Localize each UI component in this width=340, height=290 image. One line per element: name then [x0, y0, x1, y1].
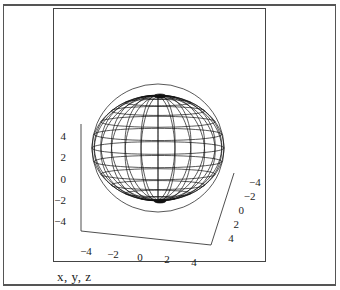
vertical-axis-ticks: 420−2−4: [54, 130, 81, 227]
bottom-axis-ticks: −4−2024: [80, 233, 201, 268]
pole-cap: [154, 94, 166, 98]
wire-line: [111, 96, 155, 201]
tick-label: −2: [244, 190, 256, 202]
sphere-wireframe: [92, 84, 224, 212]
tick-label: 0: [239, 204, 245, 216]
tick-mark: [233, 182, 247, 183]
wire-line: [160, 95, 204, 200]
pole-cap: [154, 199, 166, 203]
sphere-plot: 420−2−4 −4−2024 −4−2024: [0, 0, 340, 290]
tick-label: 0: [137, 251, 143, 263]
tick-mark: [143, 239, 147, 251]
tick-label: 4: [228, 232, 234, 244]
wire-line: [94, 96, 155, 201]
wire-line: [92, 96, 155, 201]
wire-line: [160, 96, 204, 201]
variables-label: x, y, z: [57, 269, 91, 285]
wire-line: [161, 96, 222, 201]
right-axis-ticks: −4−2024: [212, 176, 261, 244]
tick-label: 2: [61, 151, 67, 163]
wire-line: [161, 96, 224, 201]
tick-label: 4: [61, 130, 67, 142]
tick-mark: [116, 236, 120, 248]
wire-line: [141, 95, 157, 200]
tick-mark: [217, 224, 231, 225]
tick-mark: [212, 238, 226, 239]
tick-mark: [170, 241, 174, 253]
tick-mark: [89, 233, 93, 245]
tick-mark: [223, 210, 237, 211]
tick-label: 4: [191, 256, 197, 268]
wire-line: [161, 96, 222, 201]
tick-label: −4: [249, 176, 261, 188]
wire-line: [159, 95, 175, 200]
tick-label: 2: [233, 218, 239, 230]
tick-label: −4: [54, 215, 66, 227]
tick-mark: [197, 244, 201, 256]
wire-line: [141, 96, 157, 201]
wire-line: [111, 95, 155, 200]
tick-label: −2: [54, 194, 66, 206]
tick-mark: [228, 196, 242, 197]
tick-label: −4: [80, 245, 92, 257]
tick-label: 0: [61, 173, 67, 185]
wire-line: [94, 96, 155, 201]
wire-line: [159, 96, 175, 201]
tick-label: 2: [164, 253, 170, 265]
base-front-edge: [81, 231, 211, 245]
tick-label: −2: [107, 248, 119, 260]
